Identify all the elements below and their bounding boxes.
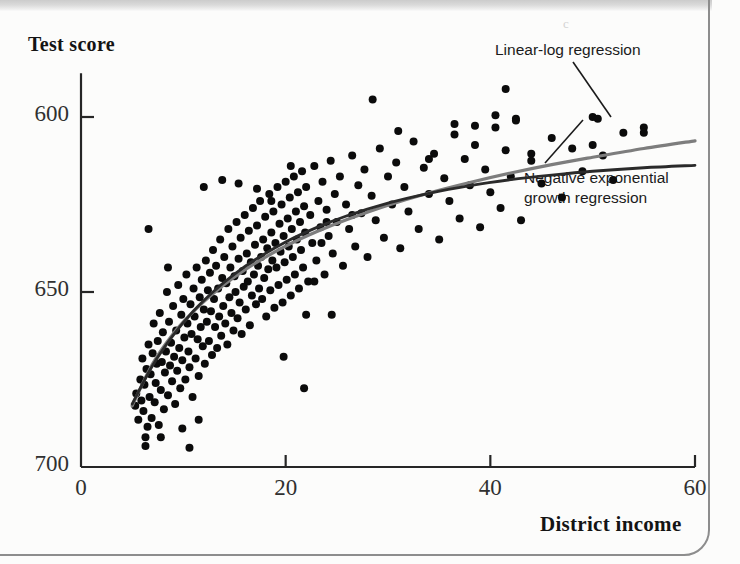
scatter-point bbox=[184, 348, 192, 356]
scatter-point bbox=[264, 265, 272, 273]
scatter-point bbox=[242, 306, 250, 314]
scatter-point bbox=[209, 246, 217, 254]
scatter-point bbox=[262, 313, 270, 321]
scatter-point bbox=[440, 174, 448, 182]
scatter-point bbox=[246, 321, 254, 329]
scatter-point bbox=[221, 320, 229, 328]
scatter-point bbox=[435, 236, 443, 244]
scatter-point bbox=[195, 416, 203, 424]
scatter-point bbox=[302, 183, 310, 191]
scatter-point bbox=[376, 145, 384, 153]
scatter-point bbox=[282, 178, 290, 186]
scatter-point bbox=[268, 257, 276, 265]
scatter-point bbox=[252, 300, 260, 308]
scatter-point bbox=[251, 241, 259, 249]
scatter-point bbox=[456, 215, 464, 223]
scatter-point bbox=[173, 367, 181, 375]
scatter-point bbox=[392, 159, 400, 167]
scatter-point bbox=[267, 197, 275, 205]
scatter-point bbox=[175, 344, 183, 352]
scatter-point bbox=[291, 271, 299, 279]
scatter-point bbox=[181, 376, 189, 384]
scatter-point bbox=[206, 269, 214, 277]
scatter-point bbox=[203, 318, 211, 326]
scatter-point bbox=[195, 372, 203, 380]
scatter-point bbox=[512, 117, 520, 125]
scatter-point bbox=[255, 285, 263, 293]
scatter-point bbox=[193, 264, 201, 272]
scatter-point bbox=[270, 304, 278, 312]
scatter-point bbox=[329, 250, 337, 258]
scatter-point bbox=[197, 323, 205, 331]
scatter-point bbox=[321, 271, 329, 279]
scatter-point bbox=[502, 85, 510, 93]
scatter-point bbox=[220, 253, 228, 261]
scatter-point bbox=[280, 232, 288, 240]
scatter-point bbox=[141, 433, 149, 441]
scatter-point bbox=[253, 185, 261, 193]
scatter-point bbox=[178, 356, 186, 364]
scatter-point bbox=[451, 120, 459, 128]
scatter-point bbox=[265, 190, 273, 198]
scatter-point bbox=[295, 285, 303, 293]
scatter-point bbox=[137, 397, 145, 405]
scatter-point bbox=[331, 190, 339, 198]
scatter-point bbox=[491, 111, 499, 119]
scatter-point bbox=[155, 421, 163, 429]
scatter-point bbox=[278, 201, 286, 209]
scatter-point bbox=[234, 314, 242, 322]
scatter-point bbox=[244, 278, 252, 286]
scatter-point bbox=[170, 353, 178, 361]
scatter-point bbox=[269, 208, 277, 216]
scatter-point bbox=[354, 181, 362, 189]
scanned-page: c Test score District income Linear-log … bbox=[0, 0, 740, 564]
scatter-point bbox=[279, 299, 287, 307]
scatter-point bbox=[145, 225, 153, 233]
scatter-point bbox=[200, 306, 208, 314]
scatter-point bbox=[461, 155, 469, 163]
scatter-point bbox=[394, 127, 402, 135]
scatter-point bbox=[445, 197, 453, 205]
scatter-point bbox=[228, 243, 236, 251]
scatter-point bbox=[201, 360, 209, 368]
scatter-point bbox=[273, 183, 281, 191]
scatter-point bbox=[404, 208, 412, 216]
scatter-point bbox=[372, 216, 380, 224]
scatter-point bbox=[157, 433, 165, 441]
scatter-point bbox=[310, 278, 318, 286]
scatter-point bbox=[166, 362, 174, 370]
scatter-point bbox=[219, 302, 227, 310]
scatter-point bbox=[235, 180, 243, 188]
scatter-point bbox=[198, 276, 206, 284]
scatter-point bbox=[179, 295, 187, 303]
scatter-point bbox=[380, 234, 388, 242]
scatter-point bbox=[368, 192, 376, 200]
scatter-point bbox=[275, 281, 283, 289]
scatter-point bbox=[215, 313, 223, 321]
scatter-point bbox=[236, 299, 244, 307]
scatter-point bbox=[194, 335, 202, 343]
scatter-point bbox=[150, 320, 158, 328]
scatter-point bbox=[200, 183, 208, 191]
scatter-point bbox=[272, 264, 280, 272]
scatter-point bbox=[328, 311, 336, 319]
scatter-point bbox=[169, 302, 177, 310]
scatter-point bbox=[314, 197, 322, 205]
scatter-point bbox=[180, 334, 188, 342]
scatter-point bbox=[306, 211, 314, 219]
scatter-point bbox=[171, 400, 179, 408]
scatter-point bbox=[233, 218, 241, 226]
scatter-point bbox=[558, 194, 566, 202]
scatter-point bbox=[144, 423, 152, 431]
scatter-point bbox=[168, 377, 176, 385]
scatter-point bbox=[348, 152, 356, 160]
scatter-point bbox=[261, 213, 269, 221]
scatter-point bbox=[300, 384, 308, 392]
scatter-point bbox=[471, 141, 479, 149]
scatter-point bbox=[248, 292, 256, 300]
scatter-plot-canvas bbox=[0, 0, 712, 564]
scatter-point bbox=[290, 173, 298, 181]
scatter-point bbox=[400, 183, 408, 191]
scatter-point bbox=[415, 225, 423, 233]
scatter-point bbox=[345, 225, 353, 233]
